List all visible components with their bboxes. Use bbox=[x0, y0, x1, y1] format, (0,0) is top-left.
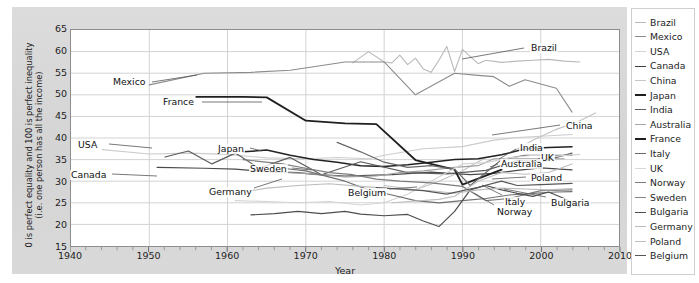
y-tick-45: 45 bbox=[21, 111, 67, 121]
legend-item-germany[interactable]: Germany bbox=[635, 219, 691, 234]
legend-label: India bbox=[650, 105, 673, 114]
legend-swatch-icon bbox=[635, 94, 646, 96]
x-tick-1940: 1940 bbox=[58, 250, 82, 261]
legend-item-italy[interactable]: Italy bbox=[635, 146, 691, 161]
legend-item-china[interactable]: China bbox=[635, 73, 691, 88]
legend-swatch-icon bbox=[635, 109, 646, 110]
y-tick-60: 60 bbox=[21, 46, 67, 56]
x-axis-tick-labels: 19401950196019701980199020002010 bbox=[70, 250, 622, 264]
callout-usa: USA bbox=[77, 140, 98, 150]
y-tick-35: 35 bbox=[21, 155, 67, 165]
callout-japan: Japan bbox=[217, 144, 245, 154]
legend-label: USA bbox=[650, 47, 669, 56]
callout-belgium: Belgium bbox=[347, 188, 387, 198]
legend-label: Canada bbox=[650, 61, 685, 70]
legend-label: France bbox=[650, 134, 681, 143]
legend-item-france[interactable]: France bbox=[635, 132, 691, 147]
legend-swatch-icon bbox=[635, 51, 646, 52]
legend-label: Brazil bbox=[650, 18, 676, 27]
callout-norway: Norway bbox=[496, 207, 533, 217]
gini-coefficient-line-chart: 0 is perfect equality and 100 is perfect… bbox=[0, 0, 699, 283]
legend-item-brazil[interactable]: Brazil bbox=[635, 15, 691, 30]
x-tick-1990: 1990 bbox=[451, 250, 475, 261]
legend-label: Norway bbox=[650, 178, 685, 187]
legend-swatch-icon bbox=[635, 255, 646, 256]
chart-legend[interactable]: BrazilMexicoUSACanadaChinaJapanIndiaAust… bbox=[631, 8, 695, 275]
x-axis-title: Year bbox=[70, 265, 620, 276]
legend-swatch-icon bbox=[635, 36, 646, 37]
x-tick-1980: 1980 bbox=[372, 250, 396, 261]
legend-swatch-icon bbox=[635, 168, 646, 169]
plot-area bbox=[70, 29, 620, 247]
y-tick-20: 20 bbox=[21, 220, 67, 230]
legend-swatch-icon bbox=[635, 124, 646, 125]
callout-china: China bbox=[565, 121, 594, 131]
legend-swatch-icon bbox=[635, 226, 646, 227]
series-line-france bbox=[196, 97, 501, 185]
legend-label: Bulgaria bbox=[650, 207, 689, 216]
legend-label: Italy bbox=[650, 149, 670, 158]
x-tick-1950: 1950 bbox=[136, 250, 160, 261]
legend-item-sweden[interactable]: Sweden bbox=[635, 190, 691, 205]
legend-swatch-icon bbox=[635, 153, 646, 154]
x-tick-1960: 1960 bbox=[215, 250, 239, 261]
callout-australia: Australia bbox=[500, 159, 543, 169]
legend-swatch-icon bbox=[635, 241, 646, 242]
callout-sweden: Sweden bbox=[249, 164, 288, 174]
x-tick-2010: 2010 bbox=[608, 250, 632, 261]
legend-label: China bbox=[650, 76, 677, 85]
legend-item-india[interactable]: India bbox=[635, 103, 691, 118]
legend-item-bulgaria[interactable]: Bulgaria bbox=[635, 205, 691, 220]
y-tick-50: 50 bbox=[21, 89, 67, 99]
legend-label: Japan bbox=[650, 91, 676, 100]
legend-label: Australia bbox=[650, 120, 691, 129]
legend-item-usa[interactable]: USA bbox=[635, 44, 691, 59]
callout-bulgaria: Bulgaria bbox=[550, 198, 591, 208]
legend-swatch-icon bbox=[635, 80, 646, 81]
legend-swatch-icon bbox=[635, 212, 646, 213]
legend-item-canada[interactable]: Canada bbox=[635, 59, 691, 74]
legend-item-mexico[interactable]: Mexico bbox=[635, 30, 691, 45]
legend-swatch-icon bbox=[635, 182, 646, 183]
callout-france: France bbox=[162, 97, 195, 107]
callout-germany: Germany bbox=[208, 187, 253, 197]
legend-item-uk[interactable]: UK bbox=[635, 161, 691, 176]
series-line-mexico bbox=[149, 62, 572, 112]
callout-poland: Poland bbox=[530, 173, 563, 183]
callout-canada: Canada bbox=[70, 170, 107, 180]
legend-swatch-icon bbox=[635, 138, 646, 140]
series-lines bbox=[71, 30, 619, 246]
legend-label: Poland bbox=[650, 237, 681, 246]
legend-swatch-icon bbox=[635, 197, 646, 198]
callout-mexico: Mexico bbox=[112, 77, 146, 87]
legend-label: Mexico bbox=[650, 32, 682, 41]
legend-label: UK bbox=[650, 164, 663, 173]
x-tick-1970: 1970 bbox=[294, 250, 318, 261]
legend-item-belgium[interactable]: Belgium bbox=[635, 249, 691, 264]
y-tick-40: 40 bbox=[21, 133, 67, 143]
series-line-poland bbox=[392, 164, 572, 203]
callout-brazil: Brazil bbox=[530, 43, 558, 53]
legend-label: Sweden bbox=[650, 193, 687, 202]
y-tick-25: 25 bbox=[21, 198, 67, 208]
legend-label: Belgium bbox=[650, 251, 688, 260]
y-tick-65: 65 bbox=[21, 24, 67, 34]
x-tick-2000: 2000 bbox=[529, 250, 553, 261]
legend-item-poland[interactable]: Poland bbox=[635, 234, 691, 249]
series-line-china bbox=[384, 113, 595, 190]
legend-label: Germany bbox=[650, 222, 693, 231]
y-tick-55: 55 bbox=[21, 68, 67, 78]
chart-panel: 0 is perfect equality and 100 is perfect… bbox=[12, 7, 627, 274]
legend-item-norway[interactable]: Norway bbox=[635, 176, 691, 191]
legend-item-australia[interactable]: Australia bbox=[635, 117, 691, 132]
legend-swatch-icon bbox=[635, 66, 646, 67]
y-tick-30: 30 bbox=[21, 177, 67, 187]
legend-item-japan[interactable]: Japan bbox=[635, 88, 691, 103]
y-axis-tick-labels: 1520253035404550556065 bbox=[12, 7, 67, 274]
legend-swatch-icon bbox=[635, 22, 646, 23]
